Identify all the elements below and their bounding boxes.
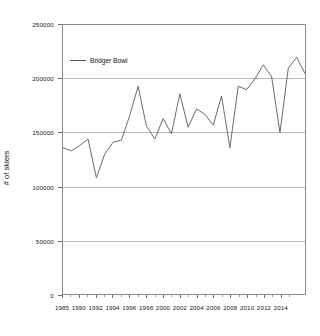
x-tick-mark-1985	[62, 295, 63, 298]
x-tick-label-1996: 1996	[122, 304, 136, 311]
x-minor-tick-2009	[256, 295, 257, 297]
x-tick-mark-2012	[264, 295, 265, 298]
x-minor-tick-2001	[188, 295, 189, 297]
legend-line-swatch	[70, 60, 86, 61]
x-tick-label-1985: 1985	[55, 304, 69, 311]
x-tick-label-1990: 1990	[72, 304, 86, 311]
x-tick-mark-1992	[96, 295, 97, 298]
x-tick-label-2004: 2004	[190, 304, 204, 311]
x-tick-mark-2008	[230, 295, 231, 298]
chart-container: 250000 200000 150000 100000 50000 0 # of…	[0, 0, 320, 336]
x-tick-mark-2010	[247, 295, 248, 298]
x-minor-tick-2007	[239, 295, 240, 297]
x-minor-tick-2013	[289, 295, 290, 297]
x-axis: 1985199019921994199619982000200220042006…	[62, 295, 306, 336]
x-minor-tick-1995	[138, 295, 139, 297]
x-minor-tick-2003	[205, 295, 206, 297]
x-tick-mark-2002	[180, 295, 181, 298]
x-minor-tick-1989	[87, 295, 88, 297]
legend: Bridger Bowl	[70, 57, 127, 64]
plot-area	[62, 24, 306, 295]
x-tick-label-1992: 1992	[89, 304, 103, 311]
x-minor-tick-1993	[121, 295, 122, 297]
series-line-bridger-bowl	[63, 25, 305, 294]
x-tick-mark-2014	[281, 295, 282, 298]
x-tick-label-2012: 2012	[257, 304, 271, 311]
x-tick-label-2002: 2002	[173, 304, 187, 311]
x-tick-mark-1994	[112, 295, 113, 298]
legend-label-bridger-bowl: Bridger Bowl	[90, 57, 127, 64]
y-tick-label-150000: 150000	[32, 129, 54, 136]
x-tick-label-2000: 2000	[156, 304, 170, 311]
y-tick-label-50000: 50000	[36, 238, 54, 245]
x-tick-mark-1996	[129, 295, 130, 298]
x-minor-tick-1987	[70, 295, 71, 297]
x-tick-label-2006: 2006	[206, 304, 220, 311]
y-tick-label-0: 0	[50, 292, 54, 299]
x-tick-label-1998: 1998	[139, 304, 153, 311]
x-tick-mark-2000	[163, 295, 164, 298]
y-tick-label-200000: 200000	[32, 75, 54, 82]
x-tick-mark-1990	[79, 295, 80, 298]
x-tick-mark-1998	[146, 295, 147, 298]
x-minor-tick-1997	[155, 295, 156, 297]
x-tick-mark-2004	[197, 295, 198, 298]
x-minor-tick-1991	[104, 295, 105, 297]
x-tick-label-2008: 2008	[223, 304, 237, 311]
x-minor-tick-2005	[222, 295, 223, 297]
x-minor-tick-2011	[272, 295, 273, 297]
y-tick-label-100000: 100000	[32, 184, 54, 191]
x-minor-tick-1999	[171, 295, 172, 297]
y-tick-label-250000: 250000	[32, 21, 54, 28]
x-tick-label-2014: 2014	[274, 304, 288, 311]
y-axis-title: # of skiers	[2, 151, 11, 186]
x-tick-label-1994: 1994	[105, 304, 119, 311]
x-tick-label-2010: 2010	[240, 304, 254, 311]
x-tick-mark-2006	[213, 295, 214, 298]
